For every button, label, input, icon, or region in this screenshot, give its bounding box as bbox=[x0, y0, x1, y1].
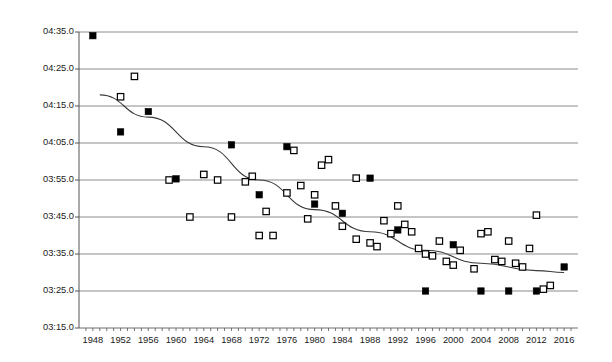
x-axis-tick-label: 2016 bbox=[554, 336, 575, 345]
x-axis-tick-label: 1988 bbox=[360, 336, 381, 345]
x-axis-tick-label: 1960 bbox=[166, 336, 187, 345]
x-axis-tick-label: 1992 bbox=[387, 336, 408, 345]
x-axis-tick-label: 2004 bbox=[471, 336, 492, 345]
x-axis-tick-label: 1956 bbox=[138, 336, 159, 345]
x-axis-tick-label: 1980 bbox=[304, 336, 325, 345]
x-axis-tick-label: 1952 bbox=[110, 336, 131, 345]
x-axis-tick-label: 1996 bbox=[415, 336, 436, 345]
chart-container: Aika (hh:mm:ss) 04:35.004:25.004:15.004:… bbox=[0, 0, 612, 362]
x-axis-tick-label: 2012 bbox=[526, 336, 547, 345]
x-axis-tick-labels: 1948195219561960196419681972197619801984… bbox=[0, 0, 612, 362]
x-axis-tick-label: 1948 bbox=[83, 336, 104, 345]
x-axis-tick-label: 1972 bbox=[249, 336, 270, 345]
x-axis-tick-label: 2008 bbox=[498, 336, 519, 345]
x-axis-tick-label: 1984 bbox=[332, 336, 353, 345]
x-axis-tick-label: 2000 bbox=[443, 336, 464, 345]
x-axis-tick-label: 1968 bbox=[221, 336, 242, 345]
x-axis-tick-label: 1976 bbox=[277, 336, 298, 345]
x-axis-tick-label: 1964 bbox=[193, 336, 214, 345]
